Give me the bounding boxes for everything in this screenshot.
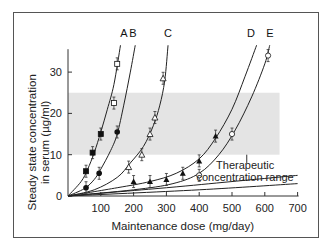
x-tick-label: 300 bbox=[157, 202, 175, 214]
data-point-b bbox=[96, 170, 102, 176]
x-tick-label: 100 bbox=[92, 202, 110, 214]
y-tick-label: 0 bbox=[56, 190, 62, 202]
y-tick-label: 30 bbox=[50, 66, 62, 78]
data-point-a bbox=[111, 101, 116, 106]
x-tick-label: 500 bbox=[223, 202, 241, 214]
data-point-a bbox=[90, 150, 95, 155]
x-tick-label: 400 bbox=[190, 202, 208, 214]
data-point-e bbox=[265, 53, 270, 58]
curve-label-c: C bbox=[164, 27, 172, 39]
data-point-e bbox=[229, 131, 234, 136]
data-point-a bbox=[84, 169, 89, 174]
data-point-b bbox=[83, 185, 89, 191]
x-axis-title: Maintenance dose (mg/day) bbox=[112, 220, 255, 232]
x-tick-label: 600 bbox=[256, 202, 274, 214]
svg-text:Steady state concentration: Steady state concentration bbox=[26, 74, 38, 210]
data-point-b bbox=[114, 129, 120, 135]
therapeutic-label: Therapeutic bbox=[216, 159, 275, 171]
x-tick-label: 200 bbox=[124, 202, 142, 214]
data-point-d bbox=[131, 179, 137, 185]
svg-text:in serum (µg/ml): in serum (µg/ml) bbox=[39, 100, 51, 183]
data-point-c bbox=[126, 164, 132, 170]
y-tick-label: 20 bbox=[50, 107, 62, 119]
y-axis-title: Steady state concentrationin serum (µg/m… bbox=[26, 74, 51, 210]
y-tick-label: 10 bbox=[50, 149, 62, 161]
x-tick-label: 700 bbox=[288, 202, 306, 214]
curve-label-e: E bbox=[266, 27, 273, 39]
therapeutic-label: concentration range bbox=[197, 171, 294, 183]
curve-label-a: A bbox=[120, 27, 128, 39]
therapeutic-band bbox=[68, 93, 280, 155]
curve-label-b: B bbox=[129, 27, 136, 39]
data-point-a bbox=[98, 132, 103, 137]
chart: 1002003004005006007000102030Maintenance … bbox=[0, 0, 330, 240]
curve-label-d: D bbox=[247, 27, 255, 39]
data-point-a bbox=[115, 61, 120, 66]
